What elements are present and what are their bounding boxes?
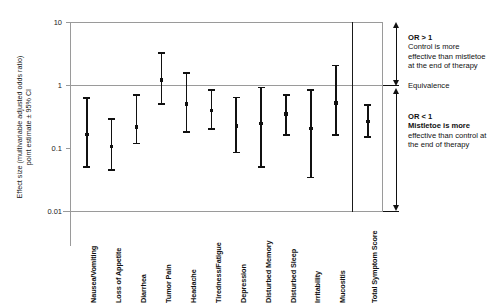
- x-axis-label: Nausea/Vomiting: [89, 246, 98, 303]
- point-estimate-marker: [160, 78, 163, 81]
- x-axis-label: Total Symptom Score: [370, 230, 379, 303]
- ci-lower-cap: [208, 128, 215, 130]
- annotation-body: effective than control at the end of the…: [408, 131, 486, 149]
- arrow-up-shaft: [396, 27, 397, 82]
- ci-lower-cap: [83, 166, 90, 168]
- ci-lower-cap: [307, 177, 314, 179]
- point-estimate-marker: [284, 112, 287, 115]
- x-axis-label: Tumor Pain: [164, 264, 173, 303]
- ci-lower-cap: [258, 166, 265, 168]
- point-estimate-marker: [110, 145, 113, 148]
- total-score-divider: [352, 22, 353, 212]
- ci-upper-cap: [83, 97, 90, 99]
- x-axis-label: Depression: [239, 264, 248, 303]
- annotation-arrows: [396, 22, 398, 212]
- x-axis-label: Disturbed Sleep: [289, 249, 298, 303]
- y-axis-title: Effect size (multivariable adjusted odds…: [15, 29, 33, 225]
- point-estimate-marker: [366, 120, 369, 123]
- ci-upper-cap: [158, 52, 165, 54]
- point-estimate-marker: [135, 125, 138, 128]
- ci-lower-cap: [332, 134, 339, 136]
- y-tick-mark: [66, 85, 70, 86]
- point-estimate-marker: [235, 124, 238, 127]
- y-tick-label: 0.1: [32, 144, 62, 153]
- x-axis-label: Irritability: [313, 271, 322, 303]
- x-axis-label: Mucositis: [338, 270, 347, 303]
- ci-lower-cap: [108, 169, 115, 171]
- ci-upper-cap: [364, 104, 371, 106]
- annotation-equivalence: Equivalence: [408, 81, 488, 90]
- annotation-body-lead: Mistletoe is more: [408, 121, 470, 130]
- y-tick-mark: [66, 22, 70, 23]
- x-axis-label: Tiredness/Fatigue: [214, 242, 223, 303]
- ci-upper-cap: [133, 94, 140, 96]
- x-axis-label: Loss of Appetite: [114, 248, 123, 303]
- confidence-interval-line: [310, 89, 312, 178]
- point-estimate-marker: [185, 102, 188, 105]
- ci-upper-cap: [233, 97, 240, 99]
- ci-lower-cap: [233, 152, 240, 154]
- x-axis-label: Diarrhea: [139, 274, 148, 303]
- y-tick-label: 0.01: [32, 207, 62, 216]
- ci-upper-cap: [108, 118, 115, 120]
- arrow-down-head-upper-icon: [393, 80, 399, 86]
- ci-upper-cap: [208, 89, 215, 91]
- annotation-heading: Equivalence: [408, 81, 449, 90]
- ci-lower-cap: [133, 143, 140, 145]
- arrow-down-shaft: [396, 93, 397, 206]
- ci-lower-cap: [183, 131, 190, 133]
- x-axis-label: Disturbed Memory: [264, 241, 273, 303]
- x-axis-label: Headache: [189, 269, 198, 303]
- forest-plot-figure: Effect size (multivariable adjusted odds…: [0, 0, 490, 307]
- point-estimate-marker: [259, 122, 262, 125]
- ci-lower-cap: [158, 103, 165, 105]
- y-tick-label: 1: [32, 81, 62, 90]
- ci-lower-cap: [364, 136, 371, 138]
- annotation-body: Control is more effective than mistletoe…: [408, 42, 486, 70]
- y-tick-mark: [66, 211, 70, 212]
- arrow-down-head-bottom-icon: [393, 205, 399, 211]
- annotation-heading: OR < 1: [408, 112, 432, 121]
- y-tick-mark: [66, 148, 70, 149]
- ci-upper-cap: [332, 65, 339, 67]
- ci-lower-cap: [283, 134, 290, 136]
- ci-upper-cap: [183, 72, 190, 74]
- confidence-interval-line: [136, 94, 138, 144]
- ci-upper-cap: [258, 87, 265, 89]
- confidence-interval-line: [260, 87, 262, 168]
- point-estimate-marker: [334, 101, 337, 104]
- annotation-heading: OR > 1: [408, 33, 432, 42]
- ci-upper-cap: [283, 94, 290, 96]
- y-axis-spine-lower: [70, 212, 71, 246]
- point-estimate-marker: [210, 109, 213, 112]
- annotation-or-greater-than-one: OR > 1 Control is more effective than mi…: [408, 33, 488, 71]
- annotation-or-less-than-one: OR < 1 Mistletoe is more effective than …: [408, 112, 488, 150]
- y-tick-label: 10: [32, 18, 62, 27]
- ci-upper-cap: [307, 89, 314, 91]
- point-estimate-marker: [85, 133, 88, 136]
- point-estimate-marker: [309, 127, 312, 130]
